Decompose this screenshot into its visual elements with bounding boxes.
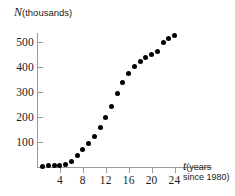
data-point	[92, 134, 97, 139]
data-point	[115, 91, 120, 96]
data-point	[40, 164, 45, 169]
data-point	[86, 141, 91, 146]
data-point	[161, 40, 166, 45]
data-point	[172, 33, 177, 38]
x-axis-tick-label: 12	[95, 174, 117, 186]
y-axis-tick-label: 300	[8, 86, 34, 98]
y-axis-tick	[38, 67, 43, 68]
x-axis-tick	[106, 168, 107, 173]
y-axis-tick	[38, 42, 43, 43]
data-point	[143, 55, 148, 60]
x-axis-label: t(years since 1980)	[183, 160, 230, 182]
data-point	[80, 147, 85, 152]
y-axis-tick	[38, 142, 43, 143]
y-axis-tick-label: 400	[8, 61, 34, 73]
y-axis-tick	[38, 92, 43, 93]
data-point	[149, 52, 154, 57]
data-point	[138, 59, 143, 64]
x-axis-tick-label: 4	[49, 174, 71, 186]
x-axis-unit-line1: (years	[186, 162, 211, 172]
data-point	[98, 125, 103, 130]
x-axis-unit-line2: since 1980)	[183, 172, 230, 183]
data-point	[103, 115, 108, 120]
y-axis-tick-label: 100	[8, 136, 34, 148]
y-axis-line	[37, 33, 38, 168]
data-point	[155, 49, 160, 54]
x-axis-tick	[83, 168, 84, 173]
data-point	[52, 163, 57, 168]
data-point	[63, 162, 68, 167]
data-point	[57, 163, 62, 168]
y-axis-tick-label: 200	[8, 111, 34, 123]
x-axis-tick-label: 20	[141, 174, 163, 186]
scatter-plot-figure: N(thousands) 1002003004005004812162024 t…	[0, 0, 235, 196]
data-point	[75, 153, 80, 158]
x-axis-tick-label: 8	[72, 174, 94, 186]
data-point	[132, 64, 137, 69]
y-axis-tick-label: 500	[8, 36, 34, 48]
x-axis-tick	[129, 168, 130, 173]
data-point	[109, 104, 114, 109]
x-axis-tick	[60, 168, 61, 173]
data-point	[69, 159, 74, 164]
y-axis-tick	[38, 117, 43, 118]
data-point	[120, 80, 125, 85]
x-axis-tick	[152, 168, 153, 173]
data-point	[126, 71, 131, 76]
data-point	[166, 36, 171, 41]
x-axis-tick	[175, 168, 176, 173]
x-axis-tick-label: 16	[118, 174, 140, 186]
